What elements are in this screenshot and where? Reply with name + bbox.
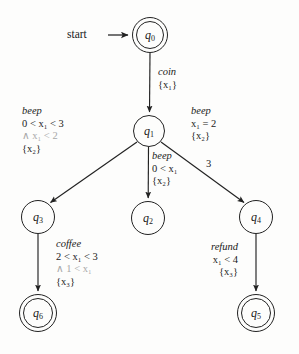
- edge-action-beep-right: beep: [191, 105, 216, 118]
- edge-guard-extra-coffee: ∧ 1 < x₁: [56, 263, 98, 276]
- state-q6-label: q6: [33, 307, 43, 319]
- state-q0-label: q0: [145, 29, 155, 41]
- edge-guard-refund: x₁ < 4: [160, 254, 238, 267]
- edge-label-q3-to-q6: coffee 2 < x₁ < 3 ∧ 1 < x₁ {x₃}: [56, 238, 98, 288]
- edge-reset-coin: {x₁}: [158, 79, 177, 92]
- edge-mark-three: 3: [206, 158, 211, 169]
- state-q5[interactable]: q5: [237, 294, 275, 332]
- start-label: start: [67, 28, 87, 40]
- state-q5-label: q5: [251, 307, 261, 319]
- edge-label-q1-to-q2: beep 0 < x₁ {x₂}: [152, 150, 177, 188]
- state-q6[interactable]: q6: [19, 294, 57, 332]
- state-q2[interactable]: q2: [131, 201, 165, 235]
- edge-guard-coffee: 2 < x₁ < 3: [56, 251, 98, 264]
- timed-automaton-figure: start q0 q1 q2 q3 q4 q5 q6 coin {x₁} bee…: [0, 0, 299, 354]
- edge-reset-beep-mid: {x₂}: [152, 175, 177, 188]
- state-q0[interactable]: q0: [132, 17, 168, 53]
- edge-action-refund: refund: [160, 241, 238, 254]
- edge-guard-beep-right: x₁ = 2: [191, 118, 216, 131]
- state-q3[interactable]: q3: [21, 200, 55, 234]
- edge-label-q4-to-q5: refund x₁ < 4 {x₃}: [160, 241, 238, 279]
- state-q4[interactable]: q4: [239, 200, 273, 234]
- edge-q0-to-q1: [150, 53, 151, 112]
- edge-label-q0-to-q1: coin {x₁}: [158, 66, 177, 91]
- edge-reset-coffee: {x₃}: [56, 276, 98, 289]
- edge-label-q1-to-q4: beep x₁ = 2 {x₂}: [191, 105, 216, 143]
- state-q1[interactable]: q1: [133, 115, 165, 147]
- edge-action-coin: coin: [158, 66, 177, 79]
- state-q3-label: q3: [33, 211, 43, 223]
- edge-reset-refund: {x₃}: [160, 266, 238, 279]
- edge-action-coffee: coffee: [56, 238, 98, 251]
- state-q1-label: q1: [144, 125, 154, 137]
- edge-guard-beep-left: 0 < x₁ < 3: [22, 118, 64, 131]
- state-q4-label: q4: [251, 211, 261, 223]
- edge-action-beep-mid: beep: [152, 150, 177, 163]
- edge-reset-beep-right: {x₂}: [191, 130, 216, 143]
- edge-action-beep-left: beep: [22, 105, 64, 118]
- edge-label-q1-to-q3: beep 0 < x₁ < 3 ∧ x₁ < 2 {x₂}: [22, 105, 64, 155]
- edge-guard-beep-mid: 0 < x₁: [152, 163, 177, 176]
- edge-guard-extra-beep-left: ∧ x₁ < 2: [22, 130, 64, 143]
- edge-reset-beep-left: {x₂}: [22, 143, 64, 156]
- state-q2-label: q2: [143, 212, 153, 224]
